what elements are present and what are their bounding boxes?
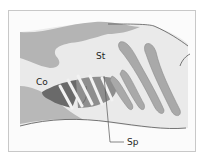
label-st: St (96, 51, 106, 61)
anatomy-diagram: Co St Sp (0, 0, 206, 159)
label-sp: Sp (127, 137, 139, 147)
label-co: Co (36, 77, 48, 87)
